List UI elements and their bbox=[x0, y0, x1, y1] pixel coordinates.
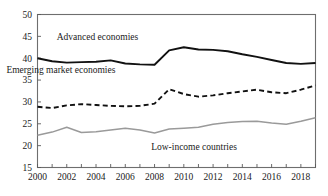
chart-figure: 1520253035404550 20002002200420062008201… bbox=[0, 0, 328, 196]
series-label: Advanced economies bbox=[57, 32, 139, 42]
x-tick-label: 2008 bbox=[145, 172, 164, 182]
series-lines bbox=[38, 47, 316, 135]
x-tick-label: 2014 bbox=[233, 172, 252, 182]
y-tick-label: 30 bbox=[23, 97, 33, 107]
y-axis-tick-labels: 1520253035404550 bbox=[23, 10, 33, 173]
x-tick-label: 2012 bbox=[204, 172, 223, 182]
series-label: Low-income countries bbox=[151, 142, 237, 152]
x-axis-tick-labels: 2000200220042006200820102012201420162018 bbox=[28, 172, 311, 182]
x-tick-label: 2000 bbox=[28, 172, 47, 182]
x-tick-label: 2018 bbox=[291, 172, 310, 182]
x-tick-label: 2002 bbox=[57, 172, 76, 182]
y-tick-label: 40 bbox=[23, 54, 33, 64]
y-tick-label: 50 bbox=[23, 10, 33, 20]
series-line bbox=[38, 47, 316, 64]
y-tick-label: 45 bbox=[23, 32, 33, 42]
x-tick-label: 2004 bbox=[87, 172, 106, 182]
y-tick-label: 25 bbox=[23, 119, 33, 129]
x-tick-label: 2010 bbox=[174, 172, 193, 182]
line-chart: 1520253035404550 20002002200420062008201… bbox=[0, 0, 328, 196]
series-line bbox=[38, 118, 316, 135]
x-tick-label: 2016 bbox=[262, 172, 281, 182]
y-tick-label: 35 bbox=[23, 75, 33, 85]
y-tick-label: 20 bbox=[23, 141, 33, 151]
series-line bbox=[38, 85, 316, 108]
series-label: Emerging market economies bbox=[6, 65, 115, 75]
x-tick-label: 2006 bbox=[116, 172, 135, 182]
